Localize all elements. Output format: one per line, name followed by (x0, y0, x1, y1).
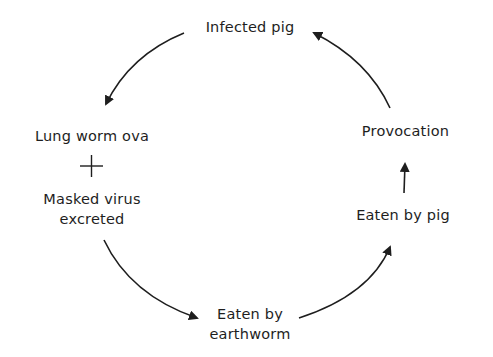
node-label-line1: Lung worm ova (22, 126, 162, 146)
node-infected-pig: Infected pig (190, 17, 310, 37)
node-label-line1: Eaten by (200, 304, 300, 324)
node-eaten-by-earthworm: Eaten by earthworm (200, 304, 300, 344)
node-provocation: Provocation (348, 121, 463, 141)
node-label-line3: excreted (22, 209, 162, 229)
node-label: Provocation (362, 123, 449, 139)
node-label: Eaten by pig (356, 207, 450, 223)
plus-connector-icon (80, 155, 103, 177)
arrow-excreted-to-earthworm (104, 240, 197, 318)
node-label-line2: earthworm (200, 324, 300, 344)
node-ova-virus-lower: Masked virus excreted (22, 189, 162, 229)
node-label-line2: Masked virus (22, 189, 162, 209)
node-ova-virus: Lung worm ova (22, 126, 162, 146)
node-label: Infected pig (206, 19, 295, 35)
arrow-earthworm-to-eaten-by-pig (299, 247, 390, 318)
node-eaten-by-pig: Eaten by pig (343, 205, 463, 225)
arrow-infected-to-ova (106, 33, 184, 104)
arrow-eaten-by-pig-to-provocation (404, 164, 405, 193)
arrow-provocation-to-infected (314, 33, 390, 108)
